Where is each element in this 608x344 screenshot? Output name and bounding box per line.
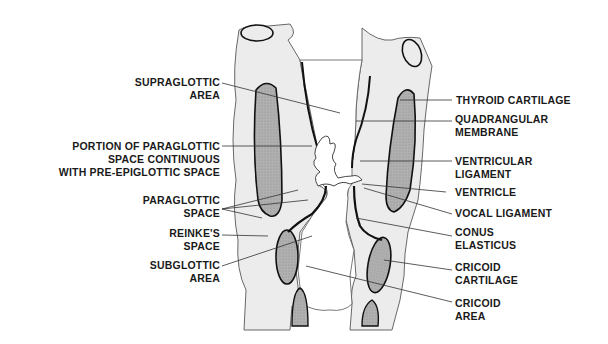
label-subglottic-area: SUBGLOTTIC AREA	[150, 259, 220, 285]
label-thyroid-cartilage: THYROID CARTILAGE	[456, 94, 571, 107]
label-reinkes-space: REINKE'S SPACE	[169, 227, 220, 253]
label-vocal-ligament: VOCAL LIGAMENT	[455, 207, 552, 220]
label-quadrangular-membrane: QUADRANGULAR MEMBRANE	[455, 113, 548, 139]
left-cricoid-cartilage	[276, 230, 298, 284]
label-conus-elasticus: CONUS ELASTICUS	[455, 226, 516, 252]
left-hyoid	[241, 25, 273, 41]
label-paraglottic-space: PARAGLOTTIC SPACE	[143, 194, 220, 220]
label-cricoid-area: CRICOID AREA	[455, 297, 501, 323]
label-supraglottic-area: SUPRAGLOTTIC AREA	[135, 76, 220, 102]
left-thyroid-cartilage	[254, 83, 282, 216]
label-paraglottic-portion: PORTION OF PARAGLOTTIC SPACE CONTINUOUS …	[59, 140, 220, 179]
label-ventricular-ligament: VENTRICULAR LIGAMENT	[455, 155, 532, 181]
label-ventricle: VENTRICLE	[455, 186, 516, 199]
label-cricoid-cartilage: CRICOID CARTILAGE	[455, 261, 518, 287]
